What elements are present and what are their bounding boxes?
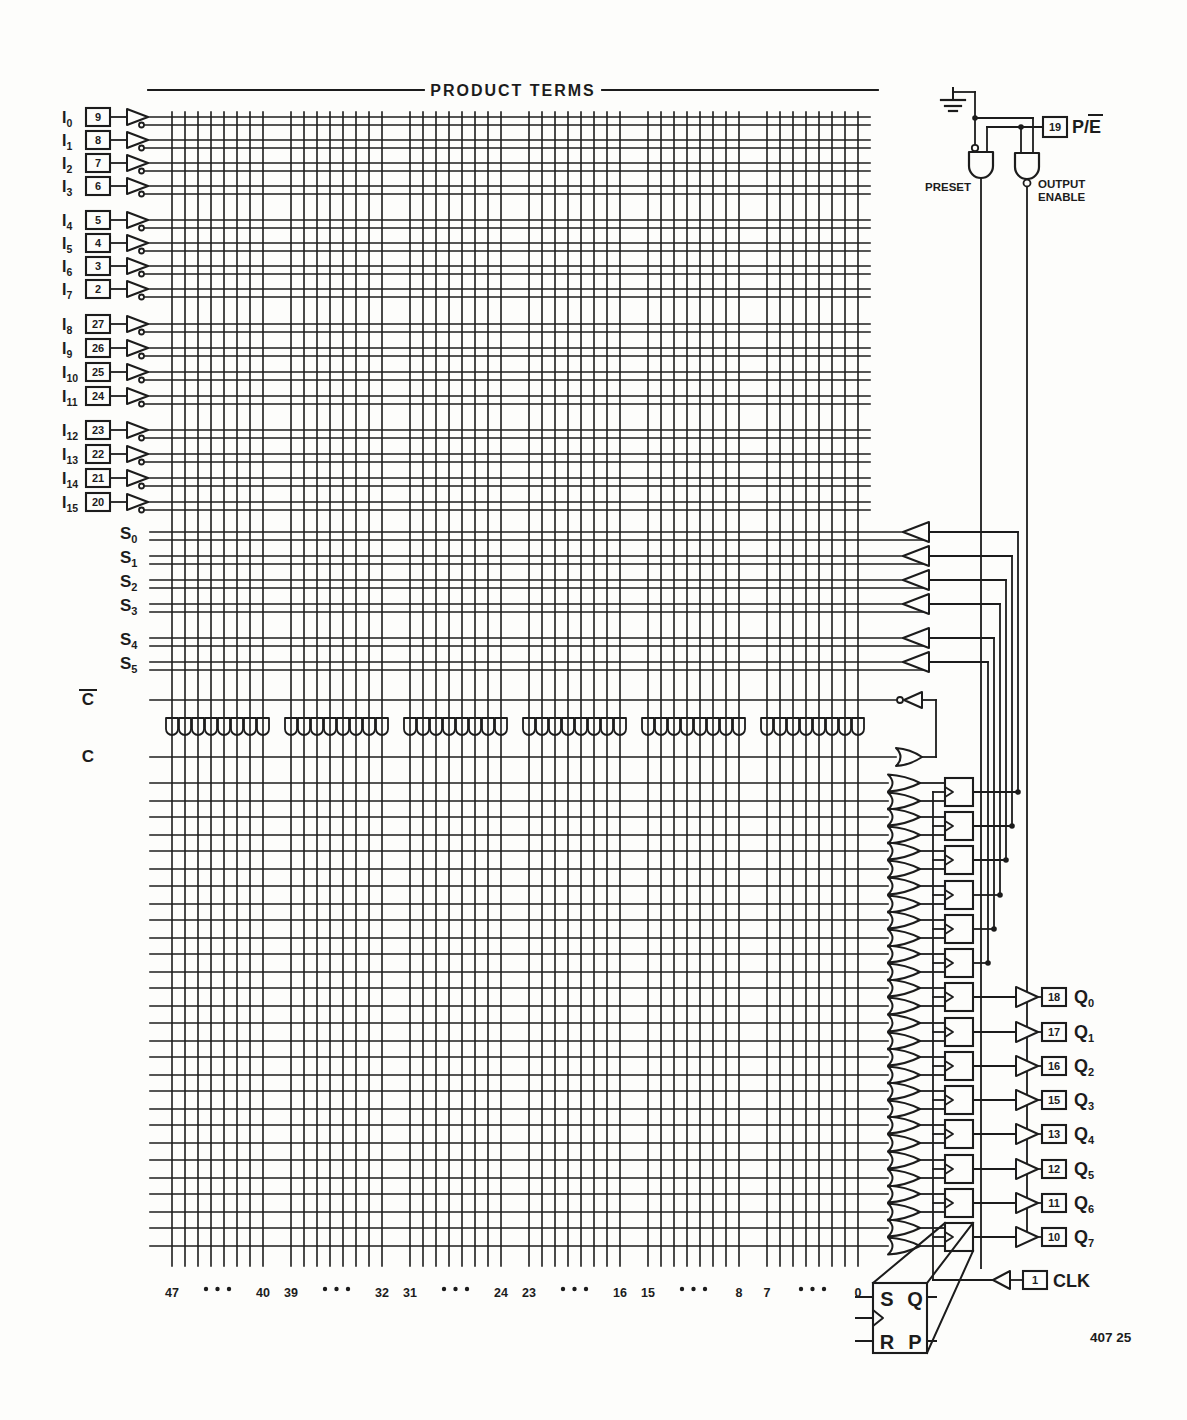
logic-sequencer-diagram: PRODUCT TERMS9I08I17I26I35I44I53I62I727I…: [0, 0, 1187, 1420]
junction-dot: [1015, 789, 1021, 795]
output-pin-number: 15: [1048, 1094, 1060, 1106]
preset-gate-icon: [969, 152, 993, 178]
term-column-number: 16: [613, 1286, 627, 1300]
figure-number: 407 25: [1090, 1330, 1132, 1345]
ellipsis-dot: [584, 1287, 588, 1291]
input-pin-number: 4: [95, 237, 102, 249]
ellipsis-dot: [691, 1287, 695, 1291]
output-pin-number: 11: [1048, 1197, 1060, 1209]
inversion-bubble-icon: [139, 226, 144, 231]
ellipsis-dot: [572, 1287, 576, 1291]
term-column-number: 8: [736, 1286, 743, 1300]
term-column-number: 15: [641, 1286, 655, 1300]
junction-dot: [1009, 823, 1015, 829]
input-pin-number: 6: [95, 180, 101, 192]
flipflop-box: [945, 1189, 973, 1217]
junction-dot: [1003, 857, 1009, 863]
inversion-bubble-icon: [139, 249, 144, 254]
inversion-bubble-icon: [139, 123, 144, 128]
ellipsis-dot: [323, 1287, 327, 1291]
input-pin-number: 24: [92, 390, 105, 402]
pe-label: P/E: [1072, 117, 1101, 137]
inversion-bubble-icon: [1024, 180, 1031, 187]
flipflop-box: [945, 1155, 973, 1183]
term-column-number: 24: [494, 1286, 508, 1300]
inversion-bubble-icon: [139, 192, 144, 197]
term-column-number: 47: [165, 1286, 179, 1300]
input-pin-number: 8: [95, 134, 101, 146]
flipflop-box: [945, 1018, 973, 1046]
input-pin-number: 20: [92, 496, 104, 508]
input-pin-number: 22: [92, 448, 104, 460]
flipflop-box: [945, 1120, 973, 1148]
ellipsis-dot: [465, 1287, 469, 1291]
ellipsis-dot: [204, 1287, 208, 1291]
detail-p-label: P: [908, 1331, 921, 1353]
flipflop-box: [945, 812, 973, 840]
schematic-page: PRODUCT TERMS9I08I17I26I35I44I53I62I727I…: [0, 0, 1187, 1420]
input-pin-number: 2: [95, 283, 101, 295]
output-pin-number: 17: [1048, 1026, 1060, 1038]
inversion-bubble-icon: [139, 460, 144, 465]
flipflop-box: [945, 881, 973, 909]
clk-pin-number: 1: [1032, 1274, 1038, 1286]
output-enable-label: OUTPUT: [1038, 178, 1085, 190]
inversion-bubble-icon: [139, 272, 144, 277]
cbar-label: C: [82, 690, 94, 709]
input-pin-number: 21: [92, 472, 104, 484]
flipflop-box: [945, 983, 973, 1011]
detail-r-label: R: [880, 1331, 895, 1353]
pe-pin-number: 19: [1049, 121, 1061, 133]
flipflop-box: [945, 778, 973, 806]
flipflop-box: [945, 915, 973, 943]
flipflop-box: [945, 1052, 973, 1080]
term-column-number: 31: [403, 1286, 417, 1300]
inversion-bubble-icon: [139, 354, 144, 359]
ellipsis-dot: [799, 1287, 803, 1291]
inversion-bubble-icon: [139, 484, 144, 489]
term-column-number: 23: [522, 1286, 536, 1300]
term-column-number: 0: [855, 1286, 862, 1300]
ellipsis-dot: [453, 1287, 457, 1291]
inversion-bubble-icon: [139, 402, 144, 407]
inversion-bubble-icon: [139, 146, 144, 151]
input-pin-number: 23: [92, 424, 104, 436]
output-pin-number: 12: [1048, 1163, 1060, 1175]
input-pin-number: 9: [95, 111, 101, 123]
inversion-bubble-icon: [972, 145, 978, 151]
ellipsis-dot: [442, 1287, 446, 1291]
c-label: C: [82, 747, 94, 766]
input-pin-number: 3: [95, 260, 101, 272]
flipflop-box: [945, 949, 973, 977]
ellipsis-dot: [810, 1287, 814, 1291]
ellipsis-dot: [215, 1287, 219, 1291]
ellipsis-dot: [561, 1287, 565, 1291]
output-enable-label: ENABLE: [1038, 191, 1086, 203]
ellipsis-dot: [703, 1287, 707, 1291]
junction-dot: [985, 960, 991, 966]
input-pin-number: 27: [92, 318, 104, 330]
output-pin-number: 13: [1048, 1128, 1060, 1140]
detail-s-label: S: [880, 1288, 893, 1310]
input-pin-number: 5: [95, 214, 101, 226]
junction-dot: [991, 926, 997, 932]
inversion-bubble-icon: [897, 697, 903, 703]
clk-label: CLK: [1053, 1271, 1090, 1291]
input-pin-number: 26: [92, 342, 104, 354]
output-enable-gate-icon: [1015, 153, 1039, 179]
term-column-number: 39: [284, 1286, 298, 1300]
ellipsis-dot: [346, 1287, 350, 1291]
inversion-bubble-icon: [139, 169, 144, 174]
inversion-bubble-icon: [139, 330, 144, 335]
term-column-number: 32: [375, 1286, 389, 1300]
term-column-number: 40: [256, 1286, 270, 1300]
ellipsis-dot: [227, 1287, 231, 1291]
junction-dot: [997, 892, 1003, 898]
ellipsis-dot: [680, 1287, 684, 1291]
preset-label: PRESET: [925, 181, 971, 193]
flipflop-box: [945, 1086, 973, 1114]
flipflop-box: [945, 846, 973, 874]
ellipsis-dot: [822, 1287, 826, 1291]
input-pin-number: 25: [92, 366, 104, 378]
output-pin-number: 10: [1048, 1231, 1060, 1243]
